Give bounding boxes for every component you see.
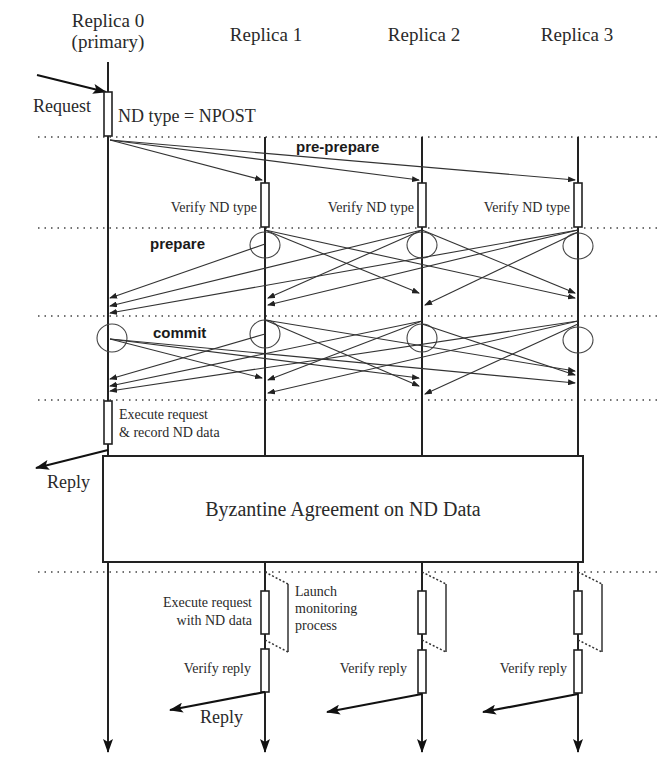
replica-2-verify-label: Verify ND type <box>328 200 414 215</box>
replica-2-verify-reply-bar <box>418 650 426 693</box>
replica-1-verify-reply-label: Verify reply <box>184 661 251 676</box>
primary-reply-label: Reply <box>47 472 90 492</box>
primary-execute-label-line2: & record ND data <box>119 425 220 440</box>
replica-2-verify-reply-label: Verify reply <box>340 661 407 676</box>
lower-lifelines <box>108 562 578 752</box>
replica-3-verify-reply-bar <box>574 650 582 693</box>
replica-3-verify-reply-label: Verify reply <box>500 661 567 676</box>
participant-replica-3-label: Replica 3 <box>541 24 613 45</box>
launch-monitoring-label-line3: process <box>295 618 337 633</box>
phase-label-prepare: prepare <box>150 235 205 252</box>
request-label: Request <box>33 96 91 116</box>
launch-monitoring-label-line1: Launch <box>295 584 337 599</box>
byzantine-agreement-label: Byzantine Agreement on ND Data <box>205 498 481 521</box>
backup-execute-label-line2: with ND data <box>177 613 253 628</box>
replica-3-verify-bar <box>574 183 582 227</box>
participant-replica-2-label: Replica 2 <box>388 24 460 45</box>
primary-reply-arrow <box>36 450 108 468</box>
backup-reply-label: Reply <box>200 707 243 727</box>
participant-replica-1-label: Replica 1 <box>230 24 302 45</box>
nd-type-note: ND type = NPOST <box>118 106 256 126</box>
participant-replica-0-label: Replica 0 <box>72 10 144 31</box>
replica-2-verify-bar <box>418 183 426 227</box>
replica-1-verify-bar <box>261 183 269 227</box>
participant-replica-0-role: (primary) <box>72 31 145 53</box>
replica-3-verify-label: Verify ND type <box>484 200 570 215</box>
phase-label-pre-prepare: pre-prepare <box>296 138 379 155</box>
replica-1-verify-label: Verify ND type <box>171 200 257 215</box>
replica-1-execute-bar <box>261 591 269 634</box>
primary-activation-bar <box>104 92 112 136</box>
primary-execute-label-line1: Execute request <box>119 407 208 422</box>
replica-3-execute-bar <box>574 591 582 634</box>
primary-execute-bar <box>104 401 112 444</box>
replica-2-execute-bar <box>418 591 426 634</box>
phase-label-commit: commit <box>153 324 206 341</box>
backup-execute-label-line1: Execute request <box>163 595 252 610</box>
launch-monitoring-label-line2: monitoring <box>295 601 357 616</box>
request-arrow <box>37 75 106 92</box>
replica-1-verify-reply-bar <box>261 649 269 692</box>
sequence-diagram: Replica 0 (primary) Replica 1 Replica 2 … <box>0 0 663 771</box>
